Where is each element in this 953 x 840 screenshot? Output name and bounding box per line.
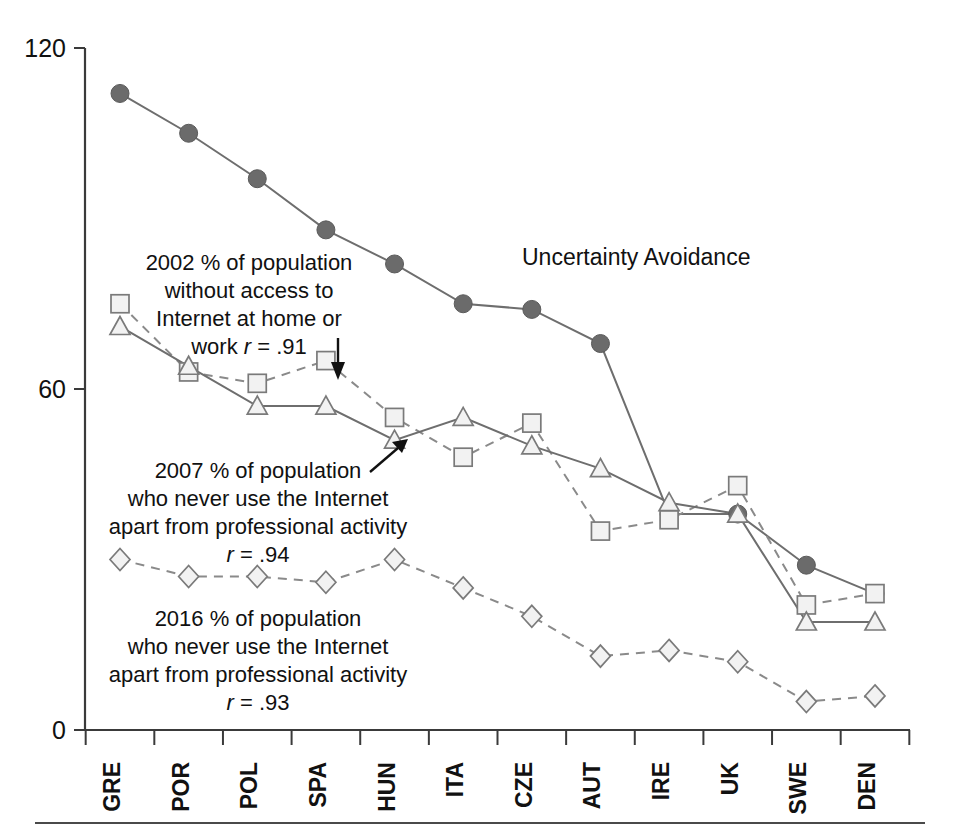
annotation-2007: 2007 % of population who never use the I…	[109, 439, 408, 567]
x-axis-label-POR: POR	[168, 762, 194, 812]
annotation-2016: 2016 % of population who never use the I…	[109, 606, 407, 715]
data-point-0-POR	[180, 124, 198, 142]
annotation-2007-arrow-shaft	[370, 448, 398, 472]
annotation-2007-r-value: = .94	[234, 542, 290, 567]
data-point-0-GRE	[111, 84, 129, 102]
chart-figure: 120 60 0 GREPORPOLSPAHUNITACZEAUTIREUKSW…	[0, 0, 953, 840]
annotation-2002-arrow-head	[331, 362, 345, 380]
annotation-2016-line1: 2016 % of population	[155, 606, 362, 631]
x-axis-label-AUT: AUT	[579, 762, 605, 809]
x-axis-label-ITA: ITA	[442, 762, 468, 797]
data-point-1-DEN	[866, 585, 884, 603]
x-axis-label-UK: UK	[717, 762, 743, 796]
data-point-1-CZE	[523, 414, 541, 432]
data-point-3-POL	[247, 566, 267, 588]
y-tick-label-120: 120	[24, 34, 66, 62]
annotation-2016-line4: r = .93	[227, 690, 290, 715]
data-point-0-HUN	[386, 255, 404, 273]
data-point-3-IRE	[659, 639, 679, 661]
annotation-2002-line1: 2002 % of population	[146, 250, 353, 275]
annotation-2002-line4: work r = .91	[190, 334, 307, 359]
x-tick-marks	[86, 730, 910, 745]
x-axis-label-IRE: IRE	[648, 762, 674, 800]
data-point-3-DEN	[865, 685, 885, 707]
data-point-3-SWE	[796, 691, 816, 713]
y-tick-label-60: 60	[38, 375, 66, 403]
y-tick-label-0: 0	[52, 716, 66, 744]
data-point-2-AUT	[590, 459, 610, 477]
data-point-0-POL	[248, 170, 266, 188]
data-point-1-AUT	[591, 522, 609, 540]
annotation-2002-r-value: = .91	[251, 334, 307, 359]
data-point-3-HUN	[385, 549, 405, 571]
x-tick-labels: GREPORPOLSPAHUNITACZEAUTIREUKSWEDEN	[99, 762, 880, 815]
data-point-3-UK	[728, 651, 748, 673]
annotation-2002-work: work	[190, 334, 244, 359]
annotation-2007-line2: who never use the Internet	[127, 486, 389, 511]
x-axis-label-GRE: GRE	[99, 762, 125, 812]
line-chart-svg: 120 60 0 GREPORPOLSPAHUNITACZEAUTIREUKSW…	[0, 0, 953, 840]
y-tick-labels: 120 60 0	[24, 34, 66, 744]
data-point-0-AUT	[591, 335, 609, 353]
annotation-2016-line3: apart from professional activity	[109, 662, 407, 687]
data-point-1-UK	[729, 477, 747, 495]
data-point-3-ITA	[453, 577, 473, 599]
data-point-3-POR	[179, 566, 199, 588]
data-point-2-CZE	[522, 436, 542, 454]
annotation-uncertainty-label: Uncertainty Avoidance	[522, 244, 750, 270]
x-axis-label-SPA: SPA	[305, 762, 331, 808]
data-point-0-CZE	[523, 300, 541, 318]
data-point-2-GRE	[110, 316, 130, 334]
data-point-2-ITA	[453, 407, 473, 425]
data-point-3-AUT	[590, 645, 610, 667]
data-point-3-GRE	[110, 549, 130, 571]
annotation-2002-line2: without access to	[164, 278, 334, 303]
annotation-2016-r-value: = .93	[234, 690, 290, 715]
x-axis-label-CZE: CZE	[511, 762, 537, 808]
data-point-1-POL	[248, 374, 266, 392]
data-point-0-ITA	[454, 295, 472, 313]
annotation-2016-line2: who never use the Internet	[127, 634, 389, 659]
x-axis-label-POL: POL	[236, 762, 262, 809]
data-point-0-SWE	[797, 556, 815, 574]
x-axis-label-SWE: SWE	[785, 762, 811, 814]
annotation-2007-line1: 2007 % of population	[155, 458, 362, 483]
data-point-1-ITA	[454, 448, 472, 466]
data-point-3-CZE	[522, 605, 542, 627]
x-axis-label-DEN: DEN	[854, 762, 880, 811]
annotation-uncertainty-avoidance: Uncertainty Avoidance	[522, 244, 750, 270]
annotation-2007-line3: apart from professional activity	[109, 514, 407, 539]
data-point-1-SPA	[317, 352, 335, 370]
data-point-1-IRE	[660, 511, 678, 529]
data-point-3-SPA	[316, 571, 336, 593]
annotation-2007-line4: r = .94	[227, 542, 290, 567]
data-point-1-GRE	[111, 295, 129, 313]
annotation-2002-line3: Internet at home or	[156, 306, 342, 331]
data-point-1-HUN	[386, 408, 404, 426]
x-axis-label-HUN: HUN	[374, 762, 400, 812]
data-point-0-SPA	[317, 221, 335, 239]
